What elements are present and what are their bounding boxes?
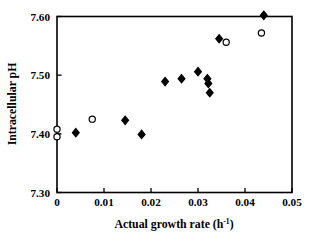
data-point-filled-diamond (162, 77, 169, 85)
y-tick-label: 7.50 (30, 69, 50, 81)
x-tick-label: 0.02 (141, 196, 161, 208)
data-point-open-circle (258, 30, 264, 36)
svg-text:Actual growth rate (h-1): Actual growth rate (h-1) (114, 217, 233, 231)
x-tick-label: 0.03 (188, 196, 208, 208)
x-axis-title: Actual growth rate (h-1) (114, 217, 233, 231)
x-axis-title-base: Actual growth rate (h (114, 217, 223, 231)
y-tick-label: 7.30 (30, 187, 50, 199)
y-tick-label: 7.40 (30, 128, 50, 140)
data-point-open-circle (54, 126, 60, 132)
plot-frame (57, 17, 292, 193)
x-tick-label: 0.04 (235, 196, 255, 208)
data-point-filled-diamond (206, 89, 213, 97)
x-axis-title-tail: ) (230, 217, 234, 231)
data-point-filled-diamond (178, 74, 185, 82)
x-axis-tick-labels: 00.010.020.030.040.05 (54, 196, 302, 208)
data-point-filled-diamond (138, 130, 145, 138)
x-tick-label: 0 (54, 196, 60, 208)
scatter-plot-figure: 00.010.020.030.040.05 7.307.407.507.60 A… (0, 0, 311, 241)
chart-canvas: 00.010.020.030.040.05 7.307.407.507.60 A… (0, 0, 311, 241)
y-axis-tick-labels: 7.307.407.507.60 (30, 11, 50, 199)
data-point-open-circle (223, 39, 229, 45)
y-tick-label: 7.60 (30, 11, 50, 23)
data-point-open-circle (54, 134, 60, 140)
data-point-filled-diamond (195, 67, 202, 75)
x-tick-label: 0.05 (282, 196, 302, 208)
data-point-filled-diamond (72, 128, 79, 136)
y-axis-title: Intracellular pH (5, 63, 19, 146)
data-point-filled-diamond (216, 35, 223, 43)
data-point-group (54, 11, 267, 140)
y-axis-title-text: Intracellular pH (5, 63, 19, 146)
data-point-open-circle (89, 116, 95, 122)
data-point-filled-diamond (260, 11, 267, 19)
x-tick-label: 0.01 (94, 196, 114, 208)
plot-border (57, 17, 292, 193)
data-point-filled-diamond (122, 116, 129, 124)
